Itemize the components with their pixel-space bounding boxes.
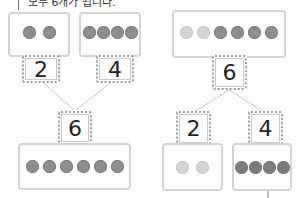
dot-group bbox=[83, 26, 138, 39]
counter-dot bbox=[23, 26, 36, 39]
counter-dot bbox=[231, 26, 244, 39]
counter-dot-light bbox=[176, 161, 189, 174]
left-part-box-1 bbox=[8, 12, 70, 57]
counter-dot bbox=[125, 26, 138, 39]
counter-dot-light bbox=[180, 26, 193, 39]
counter-dot bbox=[111, 26, 124, 39]
counter-dot bbox=[43, 160, 56, 173]
counter-dot bbox=[94, 160, 107, 173]
right-part-box-1 bbox=[162, 143, 223, 191]
counter-dot bbox=[248, 26, 261, 39]
counter-dot bbox=[77, 160, 90, 173]
right-whole-box bbox=[172, 10, 286, 58]
right-whole-number: 6 bbox=[212, 55, 247, 90]
dot-group bbox=[180, 26, 278, 39]
counter-dot bbox=[97, 26, 110, 39]
dot-group bbox=[235, 161, 290, 174]
left-whole-number: 6 bbox=[58, 111, 92, 145]
right-part-box-2 bbox=[232, 143, 292, 191]
dot-group bbox=[23, 26, 56, 39]
counter-dot bbox=[83, 26, 96, 39]
dot-group bbox=[26, 160, 124, 173]
counter-dot bbox=[111, 160, 124, 173]
left-whole-box bbox=[18, 143, 131, 190]
counter-dot bbox=[249, 161, 262, 174]
left-part-number-1: 2 bbox=[22, 55, 60, 83]
left-part-number-2: 4 bbox=[96, 55, 134, 83]
counter-dot-light bbox=[197, 26, 210, 39]
counter-dot bbox=[214, 26, 227, 39]
counter-dot-light bbox=[196, 161, 209, 174]
counter-dot bbox=[263, 161, 276, 174]
caption-text: 모두 6개가 됩니다. bbox=[28, 0, 116, 9]
counter-dot bbox=[26, 160, 39, 173]
dot-group bbox=[176, 161, 209, 174]
counter-dot bbox=[265, 26, 278, 39]
left-part-box-2 bbox=[79, 12, 141, 57]
counter-dot bbox=[277, 161, 290, 174]
right-part-number-1: 2 bbox=[176, 111, 211, 146]
counter-dot bbox=[60, 160, 73, 173]
counter-dot bbox=[43, 26, 56, 39]
right-part-number-2: 4 bbox=[248, 111, 283, 146]
caption-pointer-line bbox=[18, 0, 19, 10]
counter-dot bbox=[235, 161, 248, 174]
